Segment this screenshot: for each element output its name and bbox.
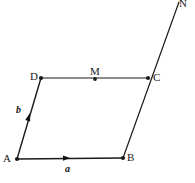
vertex-dot-group [15, 76, 150, 161]
segment-AB [17, 158, 123, 159]
vector-arrowhead-group [25, 113, 70, 161]
vertex-label-d: D [30, 71, 38, 82]
segment-BN [123, 2, 179, 158]
vertex-label-b: B [127, 152, 134, 163]
point-dot-M [93, 77, 97, 81]
point-dot-B [121, 156, 125, 160]
vertex-label-m: M [90, 66, 100, 77]
vector-b-arrowhead [25, 113, 30, 121]
vertex-label-n: N [179, 0, 187, 9]
point-dot-D [39, 76, 43, 80]
figure-root: A B C D M N a b [0, 0, 195, 183]
point-dot-A [15, 157, 19, 161]
vector-a-arrowhead [63, 155, 70, 160]
vector-label-a: a [65, 164, 70, 174]
vertex-label-c: C [153, 72, 160, 83]
point-dot-C [146, 76, 150, 80]
geometry-canvas [0, 0, 195, 183]
vertex-label-a: A [3, 153, 11, 164]
vector-label-b: b [16, 105, 21, 115]
